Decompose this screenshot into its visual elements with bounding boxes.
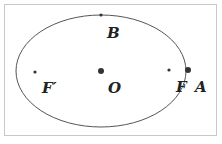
point-B — [99, 13, 102, 16]
point-F-prime — [33, 70, 36, 73]
point-F — [167, 68, 170, 71]
label-O: O — [108, 79, 121, 97]
label-B: B — [106, 24, 120, 42]
point-O — [98, 68, 104, 74]
label-F: F — [175, 78, 188, 96]
point-A — [185, 67, 191, 73]
figure-caption — [0, 138, 222, 144]
label-A: A — [193, 78, 207, 96]
ellipse-diagram: B F′ O F A — [0, 0, 222, 144]
label-F-prime: F′ — [41, 79, 57, 97]
